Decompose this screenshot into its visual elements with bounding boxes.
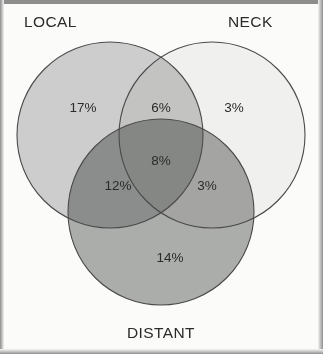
scan-edge-bottom [0, 349, 323, 354]
region-value-local-only: 17% [69, 100, 96, 115]
set-label-local: LOCAL [24, 13, 77, 30]
venn-diagram-figure: LOCAL NECK DISTANT 17% 6% 3% 8% 12% 3% 1… [0, 0, 323, 354]
scan-edge-right [318, 0, 323, 354]
region-value-center: 8% [151, 153, 171, 168]
venn-diagram-canvas: LOCAL NECK DISTANT 17% 6% 3% 8% 12% 3% 1… [0, 0, 323, 354]
region-value-neck-distant: 3% [197, 178, 217, 193]
region-value-local-neck: 6% [151, 100, 171, 115]
region-value-local-distant: 12% [104, 178, 131, 193]
region-value-distant-only: 14% [156, 250, 183, 265]
set-label-distant: DISTANT [127, 324, 195, 341]
scan-edge-left [0, 0, 4, 354]
scan-edge-top [0, 0, 323, 4]
region-value-neck-only: 3% [224, 100, 244, 115]
venn-circle-distant [68, 119, 254, 305]
set-label-neck: NECK [228, 13, 273, 30]
venn-lobes [17, 42, 305, 305]
